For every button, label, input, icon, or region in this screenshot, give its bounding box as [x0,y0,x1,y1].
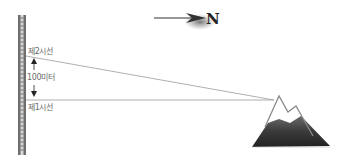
upper-sight-line [26,56,274,100]
sight-line-diagram: N 제2시선 100미터 제1시선 [0,0,351,168]
north-label: N [206,12,220,27]
distance-label: 100미터 [27,74,55,82]
lower-sight-line-label: 제1시선 [28,104,53,112]
mountain-icon [252,96,330,147]
diagram-canvas [0,0,351,168]
upper-sight-line-label: 제2시선 [28,48,53,56]
measuring-pole-icon [18,15,26,155]
